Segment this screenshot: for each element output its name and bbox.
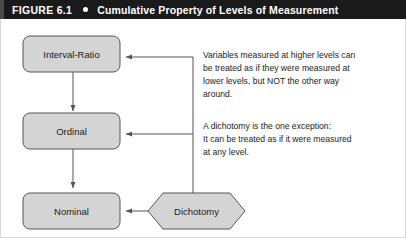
- note-dichotomy: A dichotomy is the one exception: It can…: [203, 121, 352, 157]
- node-dichotomy-label: Dichotomy: [174, 206, 219, 217]
- flowchart-diagram: Interval-Ratio Ordinal Nominal Dichotomy…: [0, 19, 406, 238]
- node-interval-ratio-label: Interval-Ratio: [43, 49, 100, 60]
- node-nominal[interactable]: Nominal: [23, 193, 120, 229]
- note-cumulative: Variables measured at higher levels can …: [203, 50, 355, 99]
- node-interval-ratio[interactable]: Interval-Ratio: [23, 36, 120, 72]
- note-cumulative-line-1: Variables measured at higher levels can: [203, 50, 355, 60]
- note-dichotomy-line-2: It can be treated as if it were measured: [203, 134, 352, 144]
- note-cumulative-line-2: be treated as if they were measured at: [203, 63, 350, 73]
- header-left-edge: [0, 0, 4, 19]
- figure-number: FIGURE 6.1: [12, 4, 72, 16]
- figure-title: Cumulative Property of Levels of Measure…: [97, 4, 338, 16]
- dot-icon: [83, 7, 88, 12]
- figure-header: FIGURE 6.1 Cumulative Property of Levels…: [0, 0, 406, 19]
- node-ordinal[interactable]: Ordinal: [23, 113, 120, 149]
- note-dichotomy-line-3: at any level.: [203, 147, 249, 157]
- node-dichotomy[interactable]: Dichotomy: [148, 193, 245, 229]
- node-nominal-label: Nominal: [54, 206, 89, 217]
- note-dichotomy-line-1: A dichotomy is the one exception:: [203, 121, 331, 131]
- node-ordinal-label: Ordinal: [56, 126, 87, 137]
- note-cumulative-line-3: lower levels, but NOT the other way: [203, 76, 340, 86]
- figure-container: FIGURE 6.1 Cumulative Property of Levels…: [0, 0, 406, 238]
- note-cumulative-line-4: around.: [203, 89, 232, 99]
